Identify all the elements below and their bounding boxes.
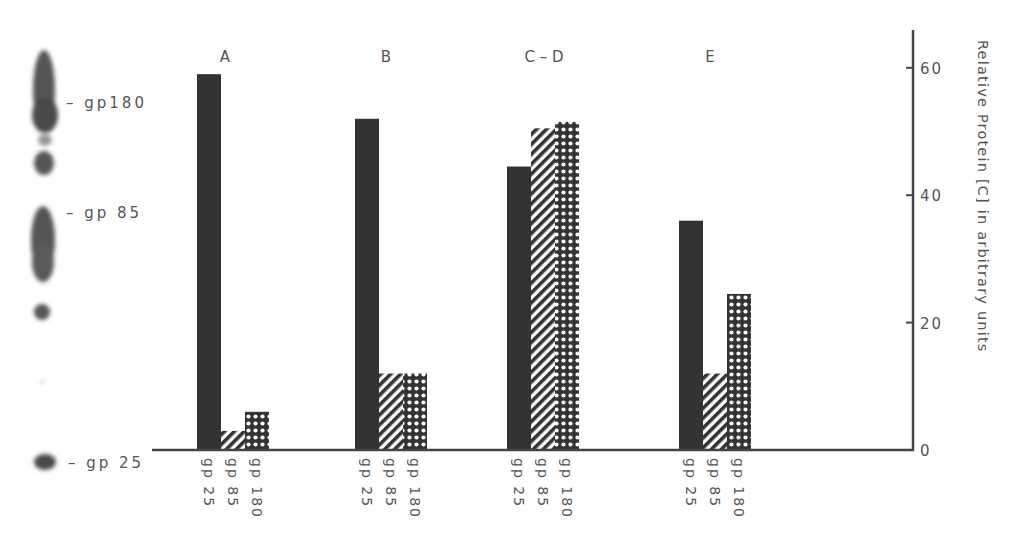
bar-gp180 [403,374,427,450]
group-label: A [220,48,231,66]
gel-label-gp85: – gp 85 [66,204,142,222]
y-tick-label: 40 [920,187,943,205]
bars-group [197,74,751,450]
bar-gp85 [379,374,403,450]
bar-tick-label: gp 85 [383,458,399,508]
bar-tick-label: gp 85 [225,458,241,508]
y-tick-label: 60 [920,60,943,78]
bar-tick-labels: gp 25gp 85gp 180gp 25gp 85gp 180gp 25gp … [201,458,747,519]
y-axis-ticks: 0204060 [906,60,943,460]
bar-gp180 [727,294,751,450]
group-label: E [705,48,714,66]
bar-chart: – gp180 – gp 85 – gp 25 ABC – DE gp 25gp… [0,0,1022,557]
bar-tick-label: gp 85 [535,458,551,508]
bar-gp25 [355,119,379,450]
y-axis-label: Relative Protein [C] in arbitrary units [975,40,991,353]
bar-tick-label: gp 25 [683,458,699,508]
gel-label-gp25: – gp 25 [68,454,144,472]
bar-tick-label: gp 180 [407,458,423,519]
bar-tick-label: gp 180 [731,458,747,519]
bar-gp25 [197,74,221,450]
bar-tick-label: gp 25 [201,458,217,508]
group-label: C – D [524,48,563,66]
bar-gp180 [555,122,579,450]
bar-tick-label: gp 25 [359,458,375,508]
bar-gp85 [221,431,245,450]
bar-tick-label: gp 180 [249,458,265,519]
y-tick-label: 20 [920,315,943,333]
bar-tick-label: gp 85 [707,458,723,508]
bar-tick-label: gp 25 [511,458,527,508]
bar-tick-label: gp 180 [559,458,575,519]
y-tick-label: 0 [920,442,932,460]
group-label: B [381,48,391,66]
bar-gp25 [507,167,531,450]
group-labels: ABC – DE [220,48,715,66]
bar-gp25 [679,221,703,450]
gel-lane [31,50,58,470]
bar-gp180 [245,412,269,450]
gel-label-gp180: – gp180 [66,94,147,112]
bar-gp85 [703,374,727,450]
bar-gp85 [531,128,555,450]
